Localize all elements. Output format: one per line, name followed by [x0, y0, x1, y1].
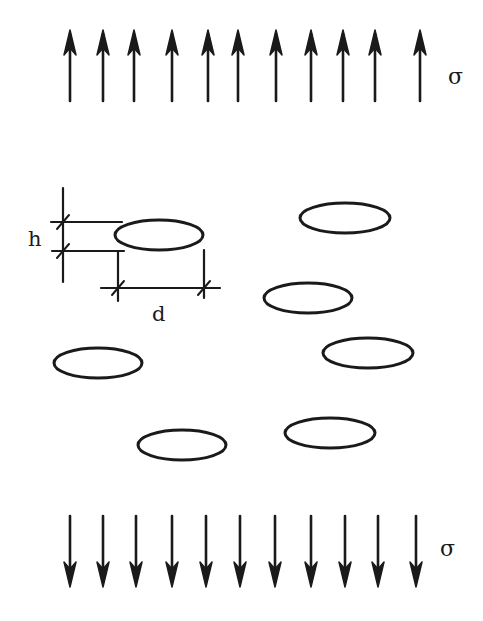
top-tension-arrows — [64, 30, 426, 101]
down-arrow — [64, 516, 76, 587]
up-arrow — [166, 30, 178, 101]
down-arrow — [372, 516, 384, 587]
bottom-tension-arrows — [64, 516, 422, 587]
dimension-h: h — [28, 188, 124, 282]
elliptical-void — [285, 418, 375, 448]
up-arrow — [337, 30, 349, 101]
up-arrow — [64, 30, 76, 101]
down-arrow — [97, 516, 109, 587]
elliptical-void — [138, 430, 226, 460]
down-arrow — [410, 516, 422, 587]
d-label: d — [152, 302, 165, 326]
bottom-sigma-label: σ — [440, 536, 455, 561]
stress-diagram: σ h d σ — [0, 0, 483, 621]
up-arrow — [305, 30, 317, 101]
down-arrow — [200, 516, 212, 587]
down-arrow — [234, 516, 246, 587]
elliptical-void — [115, 220, 203, 250]
down-arrow — [166, 516, 178, 587]
elliptical-void — [323, 338, 413, 368]
up-arrow — [232, 30, 244, 101]
down-arrow — [339, 516, 351, 587]
down-arrow — [305, 516, 317, 587]
dimension-d: d — [101, 250, 220, 326]
down-arrow — [269, 516, 281, 587]
elliptical-void — [54, 348, 142, 378]
up-arrow — [414, 30, 426, 101]
up-arrow — [128, 30, 140, 101]
top-sigma-label: σ — [448, 64, 463, 89]
elliptical-void — [300, 203, 390, 233]
up-arrow — [369, 30, 381, 101]
elliptical-void — [264, 283, 352, 313]
up-arrow — [202, 30, 214, 101]
h-label: h — [28, 227, 42, 251]
up-arrow — [270, 30, 282, 101]
down-arrow — [130, 516, 142, 587]
up-arrow — [97, 30, 109, 101]
elliptical-voids — [54, 203, 413, 460]
